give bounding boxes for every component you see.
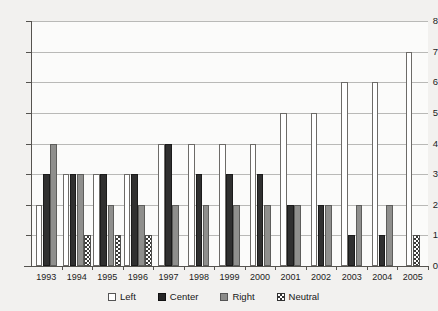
bar-1998-right: [203, 205, 210, 266]
bar-2003-left: [341, 82, 348, 266]
legend-swatch-right-icon: [220, 293, 228, 301]
bar-group-2000: [245, 21, 276, 266]
bar-1993-center: [43, 174, 50, 266]
x-tick-mark-2005: [428, 266, 429, 270]
bar-1998-left: [188, 144, 195, 267]
x-tick-label-1993: 1993: [29, 272, 63, 282]
bar-2001-center: [287, 205, 294, 266]
x-tick-mark-1996: [153, 266, 154, 270]
bar-group-1998: [184, 21, 215, 266]
bar-1994-neutral: [84, 235, 91, 266]
bar-1996-right: [138, 205, 145, 266]
bar-group-1993: [31, 21, 62, 266]
x-tick-label-1996: 1996: [121, 272, 155, 282]
legend-label: Left: [120, 291, 136, 302]
bar-1995-left: [93, 174, 100, 266]
bar-1997-right: [172, 205, 179, 266]
bar-1995-center: [100, 174, 107, 266]
bar-1997-left: [158, 144, 165, 267]
bar-1996-center: [131, 174, 138, 266]
bar-group-1994: [62, 21, 93, 266]
bar-1995-right: [108, 205, 115, 266]
x-tick-label-1998: 1998: [182, 272, 216, 282]
legend-label: Right: [232, 291, 254, 302]
bar-group-1996: [123, 21, 154, 266]
bar-chart: 012345678 199319941995199619971998199920…: [0, 0, 438, 311]
bar-2003-right: [356, 205, 363, 266]
bar-2001-left: [280, 113, 287, 266]
bar-group-2003: [336, 21, 367, 266]
bar-1999-center: [226, 174, 233, 266]
legend-swatch-center-icon: [158, 293, 166, 301]
bar-1998-center: [196, 174, 203, 266]
bar-group-2001: [275, 21, 306, 266]
bar-1997-center: [165, 144, 172, 267]
bar-1994-right: [77, 174, 84, 266]
bar-group-2004: [367, 21, 398, 266]
bar-2004-left: [372, 82, 379, 266]
bar-2003-center: [348, 235, 355, 266]
bars-layer: [31, 21, 428, 266]
bar-2002-left: [311, 113, 318, 266]
x-tick-label-2003: 2003: [335, 272, 369, 282]
bar-1999-left: [219, 144, 226, 267]
x-tick-label-1995: 1995: [90, 272, 124, 282]
bar-group-2005: [397, 21, 428, 266]
legend-item-right: Right: [220, 291, 254, 302]
bar-group-1997: [153, 21, 184, 266]
bar-2002-center: [318, 205, 325, 266]
bar-1996-left: [124, 174, 131, 266]
x-tick-mark-2001: [306, 266, 307, 270]
x-tick-label-2002: 2002: [304, 272, 338, 282]
x-tick-mark-2004: [397, 266, 398, 270]
legend-item-neutral: Neutral: [277, 291, 320, 302]
bar-2004-right: [386, 205, 393, 266]
bar-1996-neutral: [145, 235, 152, 266]
bar-2000-center: [257, 174, 264, 266]
legend-item-left: Left: [108, 291, 136, 302]
bar-1995-neutral: [115, 235, 122, 266]
bar-2000-left: [250, 144, 257, 267]
chart-legend: LeftCenterRightNeutral: [108, 291, 319, 302]
bar-1993-left: [36, 205, 43, 266]
bar-2002-right: [325, 205, 332, 266]
x-tick-label-1999: 1999: [213, 272, 247, 282]
bar-2004-center: [379, 235, 386, 266]
x-tick-mark-1999: [245, 266, 246, 270]
x-tick-mark-1998: [214, 266, 215, 270]
legend-label: Center: [170, 291, 199, 302]
bar-2000-right: [264, 205, 271, 266]
x-tick-mark-2002: [336, 266, 337, 270]
bar-2005-left: [406, 52, 413, 266]
x-tick-mark-1993: [62, 266, 63, 270]
legend-swatch-left-icon: [108, 293, 116, 301]
x-tick-mark-1997: [184, 266, 185, 270]
legend-swatch-neutral-icon: [277, 293, 285, 301]
bar-2001-right: [294, 205, 301, 266]
x-tick-mark-2003: [367, 266, 368, 270]
x-tick-mark-1995: [123, 266, 124, 270]
bar-1994-center: [70, 174, 77, 266]
bar-group-1995: [92, 21, 123, 266]
x-tick-mark-1994: [92, 266, 93, 270]
bar-group-1999: [214, 21, 245, 266]
x-tick-label-2004: 2004: [365, 272, 399, 282]
x-tick-mark-2000: [275, 266, 276, 270]
bar-1993-right: [50, 144, 57, 267]
x-tick-label-2000: 2000: [243, 272, 277, 282]
bar-1999-right: [233, 205, 240, 266]
x-tick-label-1997: 1997: [151, 272, 185, 282]
legend-item-center: Center: [158, 291, 199, 302]
legend-label: Neutral: [289, 291, 320, 302]
bar-group-2002: [306, 21, 337, 266]
x-tick-label-2001: 2001: [274, 272, 308, 282]
x-tick-label-1994: 1994: [60, 272, 94, 282]
bar-2005-neutral: [413, 235, 420, 266]
x-tick-label-2005: 2005: [396, 272, 430, 282]
bar-1994-left: [63, 174, 70, 266]
